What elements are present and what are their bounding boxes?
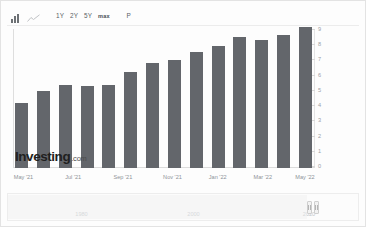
x-axis-tick-label: Jul '21 xyxy=(65,174,81,180)
period-button-p[interactable]: P xyxy=(125,11,133,20)
bar[interactable] xyxy=(146,63,159,168)
x-axis-tick-label: Mar '22 xyxy=(254,174,272,180)
bar[interactable] xyxy=(233,37,246,168)
y-axis-tick-label: 4 xyxy=(313,102,335,108)
period-button-5y[interactable]: 5Y xyxy=(82,11,94,20)
x-axis-tick-label: Jan '22 xyxy=(209,174,227,180)
bar[interactable] xyxy=(37,91,50,168)
y-axis-tick-label: 1 xyxy=(313,148,335,154)
y-axis: 9876543210 xyxy=(313,29,335,166)
y-axis-tick-label: 8 xyxy=(313,41,335,47)
y-axis-tick-label: 3 xyxy=(313,117,335,123)
period-button-2y[interactable]: 2Y xyxy=(68,11,80,20)
bar[interactable] xyxy=(102,85,115,168)
y-axis-tick-label: 9 xyxy=(313,26,335,32)
bar[interactable] xyxy=(168,60,181,168)
x-axis-tick-label: Sep '21 xyxy=(113,174,132,180)
navigator-dim-mask xyxy=(8,195,307,219)
period-button-max[interactable]: max xyxy=(96,12,112,20)
bar-chart-icon[interactable] xyxy=(7,9,22,23)
x-axis: May '21Jul '21Sep '21Nov '21Jan '22Mar '… xyxy=(13,170,314,190)
bar[interactable] xyxy=(59,85,72,168)
bar[interactable] xyxy=(299,27,312,168)
x-axis-tick-label: May '21 xyxy=(14,174,33,180)
y-axis-tick-label: 6 xyxy=(313,72,335,78)
bar[interactable] xyxy=(277,35,290,168)
x-axis-tick-label: Nov '21 xyxy=(163,174,182,180)
chart-widget: 1Y 2Y 5Y max P 9876543210 May '21Jul '21… xyxy=(0,0,366,227)
y-axis-tick-label: 2 xyxy=(313,133,335,139)
line-chart-icon[interactable] xyxy=(26,9,41,23)
period-button-1y[interactable]: 1Y xyxy=(54,11,66,20)
navigator-handle-right[interactable] xyxy=(314,195,319,219)
range-navigator[interactable]: 198020002020 xyxy=(7,193,359,221)
bars-container xyxy=(13,29,314,168)
bar-series xyxy=(15,29,312,168)
bar[interactable] xyxy=(15,103,28,168)
bar[interactable] xyxy=(255,40,268,168)
bar[interactable] xyxy=(124,72,137,168)
bar[interactable] xyxy=(81,86,94,168)
x-axis-tick-label: May '22 xyxy=(295,174,314,180)
y-axis-tick-label: 7 xyxy=(313,56,335,62)
y-axis-tick-label: 0 xyxy=(313,163,335,169)
chart-toolbar: 1Y 2Y 5Y max P xyxy=(7,6,359,26)
bar[interactable] xyxy=(190,52,203,168)
bar[interactable] xyxy=(212,46,225,168)
y-axis-tick-label: 5 xyxy=(313,87,335,93)
chart-plot-area: 9876543210 May '21Jul '21Sep '21Nov '21J… xyxy=(7,27,359,190)
navigator-handle-left[interactable] xyxy=(307,195,312,219)
y-axis-left-line xyxy=(13,29,14,168)
